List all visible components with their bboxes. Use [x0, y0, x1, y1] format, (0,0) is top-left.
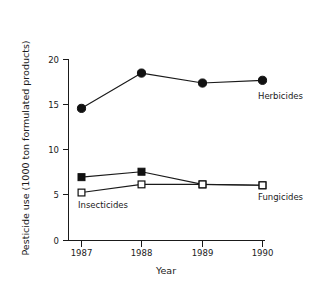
y-tick-label-20: 20 [48, 55, 59, 65]
series-label-herbicides: Herbicides [258, 91, 304, 101]
x-tick-label-1988: 1988 [131, 248, 153, 258]
data-point-fungicides-1987 [78, 174, 85, 181]
y-axis-title: Pesticide use (1000 ton formulated produ… [20, 40, 31, 255]
data-point-herbicides-1988 [137, 69, 145, 77]
data-point-insecticides-1989 [199, 181, 206, 188]
pesticide-use-line-chart: Pesticide use (1000 ton formulated produ… [0, 0, 317, 290]
series-label-insecticides: Insecticides [78, 200, 129, 210]
series-label-fungicides: Fungicides [258, 192, 304, 202]
x-tick-label-1987: 1987 [71, 248, 93, 258]
y-tick-label-5: 5 [54, 190, 59, 200]
x-tick-label-1989: 1989 [192, 248, 214, 258]
data-point-fungicides-1988 [138, 168, 145, 175]
data-point-insecticides-1988 [138, 181, 145, 188]
y-tick-label-15: 15 [48, 100, 59, 110]
chart-figure: Pesticide use (1000 ton formulated produ… [0, 0, 317, 290]
y-tick-label-10: 10 [48, 145, 59, 155]
data-point-insecticides-1990 [259, 182, 266, 189]
data-point-herbicides-1987 [77, 104, 85, 112]
x-axis-title: Year [155, 265, 176, 276]
data-point-insecticides-1987 [78, 189, 85, 196]
data-point-herbicides-1990 [258, 76, 266, 84]
x-tick-label-1990: 1990 [252, 248, 274, 258]
y-tick-label-0: 0 [54, 236, 59, 246]
data-point-herbicides-1989 [198, 79, 206, 87]
